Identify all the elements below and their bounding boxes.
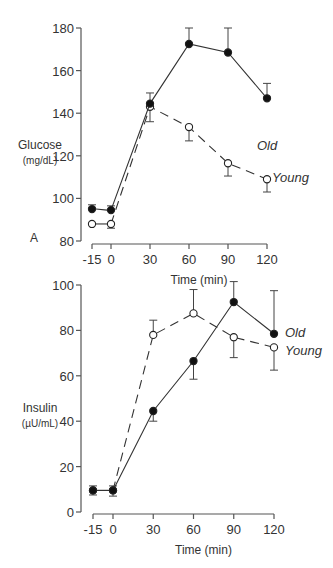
open-circle-marker — [185, 123, 192, 130]
y-tick-label: 80 — [60, 323, 74, 338]
y-tick-label: 80 — [60, 234, 74, 249]
x-tick-label: 0 — [107, 252, 114, 267]
series-young: Young — [88, 103, 309, 228]
y-axis-unit: (mg/dL) — [23, 155, 57, 166]
open-circle-marker — [270, 344, 277, 351]
filled-circle-marker — [185, 40, 192, 47]
open-circle-marker — [224, 160, 231, 167]
filled-circle-marker — [150, 407, 157, 414]
y-axis-label: Insulin — [23, 401, 58, 415]
series-label-young: Young — [272, 170, 310, 185]
x-tick-label: 120 — [256, 252, 278, 267]
glucose-chart: 80100120140160180-150306090120Time (min)… — [18, 21, 310, 287]
x-tick-label: 60 — [182, 252, 196, 267]
x-tick-label: 90 — [227, 522, 241, 537]
open-circle-marker — [107, 220, 114, 227]
y-axis-unit: (µU/mL) — [22, 418, 58, 429]
filled-circle-marker — [109, 487, 116, 494]
series-label-old: Old — [285, 325, 306, 340]
open-circle-marker — [230, 334, 237, 341]
y-tick-label: 0 — [67, 505, 74, 520]
y-tick-label: 100 — [52, 191, 74, 206]
x-tick-label: -15 — [83, 252, 102, 267]
filled-circle-marker — [224, 49, 231, 56]
x-tick-label: 0 — [109, 522, 116, 537]
y-tick-label: 180 — [52, 21, 74, 36]
y-axis-label: Glucose — [18, 138, 62, 152]
filled-circle-marker — [190, 357, 197, 364]
filled-circle-marker — [88, 205, 95, 212]
open-circle-marker — [150, 331, 157, 338]
x-tick-label: 60 — [186, 522, 200, 537]
x-tick-label: 90 — [221, 252, 235, 267]
x-axis-label: Time (min) — [171, 273, 228, 287]
y-tick-label: 60 — [60, 369, 74, 384]
y-tick-label: 100 — [52, 278, 74, 293]
open-circle-marker — [190, 310, 197, 317]
x-tick-label: 30 — [146, 522, 160, 537]
filled-circle-marker — [107, 207, 114, 214]
open-circle-marker — [263, 176, 270, 183]
y-tick-label: 140 — [52, 106, 74, 121]
filled-circle-marker — [263, 95, 270, 102]
filled-circle-marker — [89, 487, 96, 494]
insulin-chart: 020406080100-150306090120Time (min)Insul… — [22, 278, 323, 557]
filled-circle-marker — [270, 330, 277, 337]
series-label-young: Young — [285, 343, 323, 358]
x-tick-label: 30 — [143, 252, 157, 267]
series-young: Young — [89, 290, 322, 494]
x-tick-label: -15 — [84, 522, 103, 537]
x-axis-label: Time (min) — [175, 543, 232, 557]
filled-circle-marker — [146, 100, 153, 107]
figure: 80100120140160180-150306090120Time (min)… — [0, 0, 333, 568]
panel-label: A — [30, 231, 38, 245]
series-old: Old — [88, 28, 278, 214]
series-label-old: Old — [257, 138, 278, 153]
y-tick-label: 20 — [60, 460, 74, 475]
open-circle-marker — [88, 220, 95, 227]
y-tick-label: 160 — [52, 64, 74, 79]
filled-circle-marker — [230, 298, 237, 305]
x-tick-label: 120 — [263, 522, 285, 537]
y-tick-label: 40 — [60, 414, 74, 429]
